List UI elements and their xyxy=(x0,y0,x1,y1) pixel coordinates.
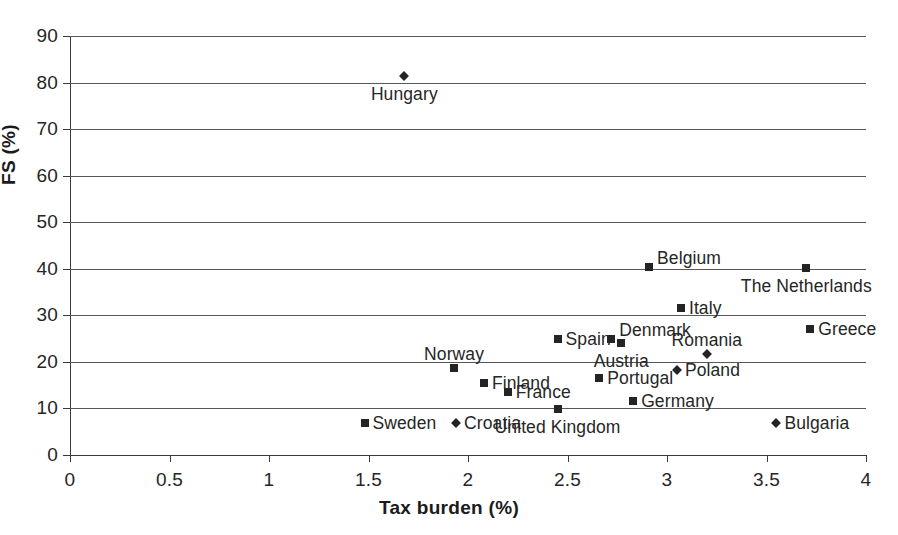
square-marker-icon xyxy=(595,374,603,382)
y-tick-label: 0 xyxy=(47,444,58,466)
square-marker-icon xyxy=(504,388,512,396)
square-marker-icon xyxy=(607,335,615,343)
gridline xyxy=(70,83,866,84)
y-tick-mark xyxy=(63,269,70,270)
data-point-label: Bulgaria xyxy=(784,415,849,433)
gridline xyxy=(70,222,866,223)
square-marker-icon xyxy=(802,264,810,272)
y-tick-label: 90 xyxy=(36,25,58,47)
data-point-label: Greece xyxy=(818,321,876,339)
y-tick-mark xyxy=(63,222,70,223)
y-tick-label: 10 xyxy=(36,397,58,419)
x-tick-mark xyxy=(70,455,71,462)
y-tick-label: 60 xyxy=(36,165,58,187)
gridline xyxy=(70,269,866,270)
square-marker-icon xyxy=(677,304,685,312)
y-tick-label: 80 xyxy=(36,72,58,94)
square-marker-icon xyxy=(554,405,562,413)
square-marker-icon xyxy=(806,325,814,333)
square-marker-icon xyxy=(361,419,369,427)
x-tick-label: 2 xyxy=(463,469,474,491)
gridline xyxy=(70,408,866,409)
square-marker-icon xyxy=(629,397,637,405)
x-tick-mark xyxy=(170,455,171,462)
x-tick-mark xyxy=(269,455,270,462)
x-tick-mark xyxy=(667,455,668,462)
data-point-label: Norway xyxy=(424,346,484,364)
y-tick-mark xyxy=(63,315,70,316)
x-tick-mark xyxy=(866,455,867,462)
y-axis-title: FS (%) xyxy=(0,124,20,185)
diamond-marker-icon xyxy=(672,365,682,375)
square-marker-icon xyxy=(645,263,653,271)
gridline xyxy=(70,129,866,130)
x-tick-label: 1.5 xyxy=(355,469,382,491)
data-point-label: Sweden xyxy=(373,415,437,433)
data-point-label: France xyxy=(516,384,571,402)
diamond-marker-icon xyxy=(702,349,712,359)
square-marker-icon xyxy=(480,379,488,387)
gridline xyxy=(70,315,866,316)
square-marker-icon xyxy=(450,364,458,372)
data-point-label: Germany xyxy=(641,393,714,411)
x-tick-mark xyxy=(369,455,370,462)
y-tick-mark xyxy=(63,83,70,84)
scatter-chart: FS (%) 0102030405060708090 00.511.522.53… xyxy=(0,0,898,535)
y-tick-mark xyxy=(63,362,70,363)
x-tick-label: 2.5 xyxy=(554,469,581,491)
data-point-label: Poland xyxy=(685,362,740,380)
data-point-label: Portugal xyxy=(607,370,673,388)
x-tick-label: 1 xyxy=(264,469,275,491)
data-point-label: Spain xyxy=(566,331,611,349)
plot-area: HungaryBelgiumThe NetherlandsItalyGreece… xyxy=(70,36,866,455)
square-marker-icon xyxy=(554,335,562,343)
y-tick-label: 30 xyxy=(36,304,58,326)
y-tick-mark xyxy=(63,176,70,177)
y-tick-mark xyxy=(63,129,70,130)
x-tick-mark xyxy=(568,455,569,462)
data-point-label: Belgium xyxy=(657,250,721,268)
x-tick-label: 0 xyxy=(65,469,76,491)
diamond-marker-icon xyxy=(399,71,409,81)
x-tick-label: 3 xyxy=(662,469,673,491)
data-point-label: Italy xyxy=(689,300,722,318)
gridline xyxy=(70,176,866,177)
data-point-label: Hungary xyxy=(371,86,438,104)
gridline xyxy=(70,36,866,37)
diamond-marker-icon xyxy=(771,418,781,428)
y-tick-label: 40 xyxy=(36,258,58,280)
x-tick-label: 3.5 xyxy=(753,469,780,491)
y-tick-label: 20 xyxy=(36,351,58,373)
data-point-label: Croatia xyxy=(464,415,521,433)
y-tick-mark xyxy=(63,408,70,409)
data-point-label: The Netherlands xyxy=(741,278,872,296)
y-tick-label: 70 xyxy=(36,118,58,140)
x-axis-title: Tax burden (%) xyxy=(0,497,898,519)
x-tick-mark xyxy=(767,455,768,462)
x-tick-mark xyxy=(468,455,469,462)
square-marker-icon xyxy=(617,339,625,347)
y-tick-mark xyxy=(63,455,70,456)
x-tick-label: 0.5 xyxy=(156,469,183,491)
data-point-label: Romania xyxy=(671,332,742,350)
diamond-marker-icon xyxy=(451,418,461,428)
y-tick-label: 50 xyxy=(36,211,58,233)
x-tick-label: 4 xyxy=(861,469,872,491)
y-tick-mark xyxy=(63,36,70,37)
